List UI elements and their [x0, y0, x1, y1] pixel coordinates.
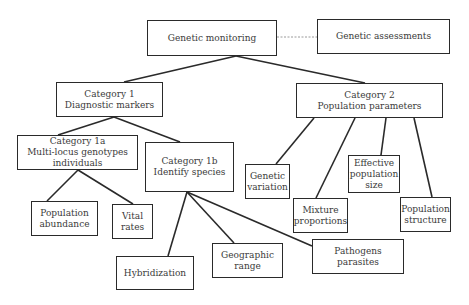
node-label: Hybridization [124, 268, 186, 279]
genetic-monitoring-diagram: Genetic monitoring Genetic assessments C… [0, 0, 469, 305]
node-label: population [350, 169, 399, 180]
node-pathogens-parasites: Pathogens parasites [312, 239, 404, 274]
node-label: variation [247, 182, 288, 193]
node-label: Category 1 [84, 89, 134, 100]
node-label: Effective [354, 158, 394, 169]
edge-category1-category1a [58, 117, 114, 135]
node-label: Category 1a [50, 136, 106, 147]
node-vital-rates: Vital rates [112, 204, 153, 239]
node-population-abundance: Population abundance [31, 201, 98, 236]
node-label: Mixture [302, 205, 338, 216]
edge-category1a-vital-rates [78, 170, 133, 204]
node-label: Category 1b [161, 156, 217, 167]
node-geographic-range: Geographic range [212, 243, 283, 278]
edge-category2-structure [414, 118, 432, 197]
node-category-1a: Category 1a Multi-locus genotypes indivi… [17, 135, 138, 170]
node-category-1: Category 1 Diagnostic markers [56, 82, 163, 117]
node-label: rates [121, 222, 144, 233]
node-genetic-assessments: Genetic assessments [317, 19, 450, 54]
node-genetic-variation: Genetic variation [245, 164, 290, 199]
node-label: Geographic [221, 250, 274, 261]
edge-category2-genetic-variation [276, 118, 314, 164]
node-label: Category 2 [344, 90, 394, 101]
node-label: abundance [39, 219, 89, 230]
node-label: Pathogens [334, 246, 381, 257]
node-label: Population [401, 204, 450, 215]
node-hybridization: Hybridization [116, 256, 194, 290]
node-label: structure [404, 215, 446, 226]
node-label: proportions [294, 216, 347, 227]
node-label: Genetic assessments [336, 31, 431, 42]
node-label: Multi-locus genotypes [27, 147, 128, 158]
node-category-1b: Category 1b Identify species [145, 142, 234, 192]
node-label: Genetic [250, 171, 285, 182]
node-label: individuals [53, 158, 103, 169]
node-mixture-proportions: Mixture proportions [293, 198, 348, 233]
node-population-structure: Population structure [400, 197, 451, 232]
node-label: Identify species [154, 167, 226, 178]
node-label: parasites [337, 257, 379, 268]
node-effective-population-size: Effective population size [348, 155, 400, 193]
node-label: Vital [122, 211, 143, 222]
node-label: size [365, 180, 383, 191]
edge-category1b-hybridization [168, 192, 187, 256]
node-label: Genetic monitoring [168, 33, 256, 44]
node-label: Diagnostic markers [65, 100, 154, 111]
edge-category2-effective-size [381, 118, 386, 155]
node-label: Population parameters [317, 101, 421, 112]
edge-category1b-geographic-range [187, 192, 234, 243]
edge-monitoring-category2 [236, 56, 365, 83]
node-label: Population [40, 208, 89, 219]
edge-monitoring-category1 [124, 56, 236, 82]
node-genetic-monitoring: Genetic monitoring [147, 20, 277, 56]
node-label: range [234, 261, 261, 272]
node-category-2: Category 2 Population parameters [296, 83, 443, 118]
edge-category1a-abundance [47, 170, 78, 201]
